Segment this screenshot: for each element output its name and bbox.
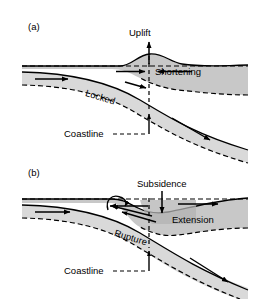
subsidence-label: Subsidence	[137, 179, 187, 189]
locked-slip-arrow-a	[125, 82, 146, 88]
panel-b-graphics	[22, 191, 248, 299]
panel-b-tag: (b)	[28, 168, 40, 178]
uplift-label: Uplift	[129, 28, 151, 38]
panel-a-graphics	[22, 42, 248, 163]
coastline-label-b: Coastline	[64, 266, 104, 276]
subduction-earthquake-cycle-figure	[0, 0, 263, 299]
coastline-label-a: Coastline	[64, 129, 104, 139]
shortening-label: Shortening	[155, 67, 201, 77]
extension-label: Extension	[172, 215, 214, 225]
panel-a-tag: (a)	[28, 22, 40, 32]
